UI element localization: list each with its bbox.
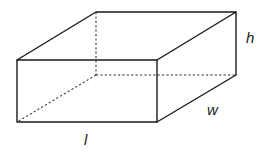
hidden-edge-bottom-left-depth bbox=[17, 75, 96, 122]
front-face bbox=[17, 60, 157, 122]
edge-bottom-right-depth bbox=[157, 75, 236, 122]
rectangular-prism-diagram: h w l bbox=[0, 0, 264, 153]
label-height: h bbox=[246, 29, 254, 46]
top-face-edges bbox=[17, 12, 236, 60]
label-width: w bbox=[207, 101, 219, 118]
label-length: l bbox=[84, 131, 88, 148]
